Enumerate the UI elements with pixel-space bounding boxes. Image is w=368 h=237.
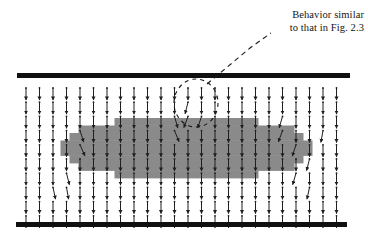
field-arrow-tail bbox=[174, 116, 176, 118]
field-arrow-tail bbox=[106, 201, 108, 203]
field-arrow-tail bbox=[241, 144, 243, 146]
field-arrow-tail bbox=[147, 201, 149, 203]
field-arrow-tail bbox=[160, 187, 162, 189]
field-arrow-tail bbox=[39, 158, 41, 160]
field-arrow-tail bbox=[282, 201, 284, 203]
field-arrow-tail bbox=[295, 116, 297, 118]
field-arrow-tail bbox=[255, 130, 257, 132]
field-arrow-tail bbox=[120, 144, 122, 146]
field-arrow-tail bbox=[120, 201, 122, 203]
field-arrow-tail bbox=[79, 116, 81, 118]
field-arrow-tail bbox=[309, 144, 311, 146]
field-arrow-tail bbox=[214, 144, 216, 146]
field-arrow-tail bbox=[228, 215, 230, 217]
field-arrow-tail bbox=[187, 130, 189, 132]
field-arrow-tail bbox=[268, 158, 270, 160]
field-arrow-tail bbox=[66, 215, 68, 217]
figure-container: Behavior similar to that in Fig. 2.3 bbox=[0, 0, 368, 237]
field-arrow bbox=[185, 102, 188, 114]
field-arrow-tail bbox=[79, 144, 81, 146]
gray-region-slab bbox=[61, 141, 313, 149]
field-arrow-tail bbox=[147, 144, 149, 146]
field-arrow-tail bbox=[241, 215, 243, 217]
field-arrow-tail bbox=[25, 172, 27, 174]
field-arrow-tail bbox=[295, 130, 297, 132]
field-arrow-tail bbox=[187, 116, 189, 118]
field-arrow-tail bbox=[187, 144, 189, 146]
field-arrow-tail bbox=[282, 172, 284, 174]
field-arrow-tail bbox=[201, 144, 203, 146]
field-arrow-tail bbox=[120, 87, 122, 89]
field-arrow-tail bbox=[79, 187, 81, 189]
field-arrow-tail bbox=[174, 158, 176, 160]
field-arrow-tail bbox=[295, 87, 297, 89]
field-arrow-tail bbox=[174, 172, 176, 174]
field-arrow-tail bbox=[25, 158, 27, 160]
field-arrow-tail bbox=[106, 158, 108, 160]
field-arrow-tail bbox=[336, 187, 338, 189]
field-arrow-tail bbox=[147, 87, 149, 89]
field-arrow-tail bbox=[322, 101, 324, 103]
field-arrow-tail bbox=[201, 116, 203, 118]
field-arrow bbox=[307, 187, 310, 199]
field-arrow-tail bbox=[322, 201, 324, 203]
field-arrow-tail bbox=[214, 172, 216, 174]
field-arrow-tail bbox=[255, 172, 257, 174]
field-arrow-tail bbox=[160, 130, 162, 132]
bottom-plate bbox=[16, 222, 347, 227]
callout-text-line-2: to that in Fig. 2.3 bbox=[290, 21, 364, 34]
field-arrow-tail bbox=[255, 116, 257, 118]
field-arrow-tail bbox=[52, 87, 54, 89]
field-arrow-tail bbox=[25, 187, 27, 189]
field-arrow-tail bbox=[106, 87, 108, 89]
field-arrow-tail bbox=[309, 201, 311, 203]
field-arrow-tail bbox=[106, 101, 108, 103]
field-arrow-tail bbox=[295, 201, 297, 203]
field-arrow-tail bbox=[322, 144, 324, 146]
field-arrow bbox=[293, 173, 296, 185]
field-arrow-tail bbox=[66, 130, 68, 132]
field-arrow-tail bbox=[120, 172, 122, 174]
field-arrow-tail bbox=[25, 144, 27, 146]
field-arrow-tail bbox=[255, 87, 257, 89]
field-arrow-tail bbox=[228, 116, 230, 118]
field-arrow-tail bbox=[322, 130, 324, 132]
field-arrow-tail bbox=[214, 116, 216, 118]
field-arrow-tail bbox=[79, 215, 81, 217]
field-arrow-tail bbox=[66, 187, 68, 189]
field-arrow-tail bbox=[52, 187, 54, 189]
field-arrow-tail bbox=[25, 130, 27, 132]
field-arrow-tail bbox=[93, 87, 95, 89]
field-arrow-tail bbox=[39, 101, 41, 103]
callout-graphics bbox=[174, 33, 271, 127]
field-arrow-tail bbox=[309, 158, 311, 160]
field-arrow-tail bbox=[160, 87, 162, 89]
field-arrow-tail bbox=[268, 130, 270, 132]
field-arrow-tail bbox=[93, 144, 95, 146]
field-arrow-tail bbox=[174, 130, 176, 132]
field-arrow-tail bbox=[93, 158, 95, 160]
field-arrow-tail bbox=[295, 172, 297, 174]
field-arrow-tail bbox=[106, 215, 108, 217]
field-arrow-tail bbox=[241, 201, 243, 203]
field-arrow-tail bbox=[282, 130, 284, 132]
field-arrow-tail bbox=[214, 130, 216, 132]
field-arrow-tail bbox=[93, 172, 95, 174]
field-arrow-tail bbox=[133, 87, 135, 89]
field-arrow-tail bbox=[309, 101, 311, 103]
field-arrow-tail bbox=[228, 87, 230, 89]
callout-text-block: Behavior similar to that in Fig. 2.3 bbox=[290, 8, 364, 34]
field-arrow-tail bbox=[147, 215, 149, 217]
gray-region bbox=[61, 118, 313, 178]
field-arrow-tail bbox=[79, 158, 81, 160]
field-arrow-tail bbox=[228, 158, 230, 160]
field-arrow-tail bbox=[282, 87, 284, 89]
field-arrow-tail bbox=[187, 172, 189, 174]
field-arrow-tail bbox=[336, 101, 338, 103]
field-arrow-tail bbox=[241, 158, 243, 160]
field-arrow-tail bbox=[174, 215, 176, 217]
field-arrow-tail bbox=[66, 144, 68, 146]
field-arrow-tail bbox=[241, 116, 243, 118]
field-arrow-tail bbox=[120, 101, 122, 103]
field-arrow-tail bbox=[187, 87, 189, 89]
